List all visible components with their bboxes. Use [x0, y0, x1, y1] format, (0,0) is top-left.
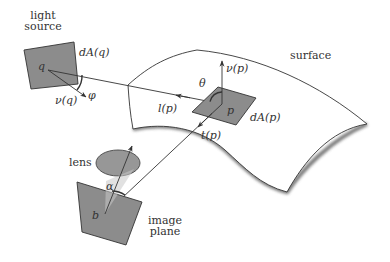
phi-label: φ — [88, 89, 96, 102]
image-plane-label-2: plane — [150, 225, 181, 238]
surface-label: surface — [290, 49, 331, 62]
lens — [96, 150, 140, 176]
alpha-label: α — [106, 180, 114, 193]
t-p-label: t(p) — [201, 129, 221, 142]
l-p-label: l(p) — [158, 102, 177, 115]
nu-p-label: ν(p) — [226, 62, 248, 75]
nu-q-label: ν(q) — [55, 94, 77, 107]
dAp-label: dA(p) — [250, 111, 281, 124]
radiometry-diagram: light source dA(q) q φ ν(q) surface ν(p)… — [0, 0, 390, 262]
lens-label: lens — [69, 156, 92, 169]
light-source-label-2: source — [24, 20, 61, 33]
q-label: q — [38, 60, 45, 73]
theta-label: θ — [199, 77, 206, 90]
p-label: p — [227, 104, 234, 117]
dAq-label: dA(q) — [79, 46, 110, 59]
light-source-patch — [24, 42, 78, 89]
b-label: b — [92, 209, 99, 222]
